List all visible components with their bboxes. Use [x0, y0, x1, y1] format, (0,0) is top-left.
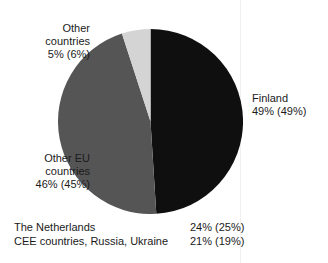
sub-breakdown-list: The Netherlands 24% (25%) CEE countries,… [14, 220, 314, 248]
pie-label-other-eu-countries-line2: countries [2, 165, 90, 178]
pie-label-finland-value: 49% (49%) [252, 105, 306, 118]
pie-label-finland: Finland 49% (49%) [252, 92, 306, 118]
pie-label-other-eu-countries-line1: Other EU [2, 152, 90, 165]
pie-label-other-countries: Other countries 5% (6%) [6, 22, 90, 62]
pie-label-other-eu-countries: Other EU countries 46% (45%) [2, 152, 90, 192]
pie-label-finland-line1: Finland [252, 92, 306, 105]
pie-label-other-countries-line2: countries [6, 35, 90, 48]
sub-breakdown-name: The Netherlands [14, 220, 190, 234]
pie-label-other-eu-countries-value: 46% (45%) [2, 178, 90, 191]
sub-breakdown-value: 24% (25%) [190, 220, 244, 234]
chart-page: Other countries 5% (6%) Other EU countri… [0, 0, 328, 263]
list-item: CEE countries, Russia, Ukraine 21% (19%) [14, 234, 314, 248]
sub-breakdown-name: CEE countries, Russia, Ukraine [14, 234, 190, 248]
sub-breakdown-value: 21% (19%) [190, 234, 244, 248]
pie-label-other-countries-line1: Other [6, 22, 90, 35]
pie-label-other-countries-value: 5% (6%) [6, 48, 90, 61]
pie-slice-finland[interactable] [151, 29, 244, 214]
clipped-header-fragment [18, 0, 138, 5]
list-item: The Netherlands 24% (25%) [14, 220, 314, 234]
